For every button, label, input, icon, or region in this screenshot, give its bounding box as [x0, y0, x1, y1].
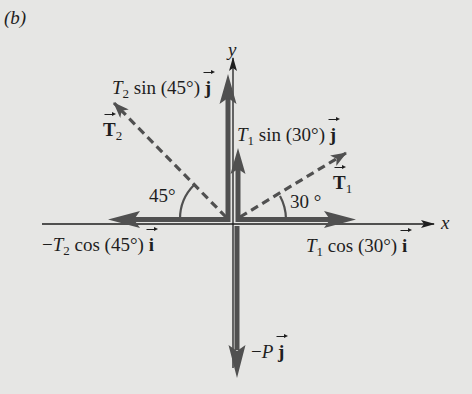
- t1-sin-label: T1 sin (30°) j: [237, 125, 336, 147]
- t1-vector-label: T1: [333, 173, 352, 195]
- t2-cos-label: −T2 cos (45°) i: [42, 235, 154, 257]
- unit-vector-i: i: [402, 236, 407, 255]
- unit-vector-j: j: [205, 78, 211, 97]
- free-body-diagram: (b) y x T2 sin (45°) j T2 T1 sin (30°) j…: [0, 0, 472, 394]
- weight-label: −P j: [251, 342, 284, 361]
- angle-arc-30: [280, 196, 286, 219]
- angle-label-45: 45°: [149, 186, 176, 205]
- t1-cos-label: T1 cos (30°) i: [306, 236, 407, 258]
- angle-label-30: 30 °: [290, 192, 321, 211]
- panel-label: (b): [4, 8, 26, 27]
- t2-sin-label: T2 sin (45°) j: [112, 78, 211, 100]
- diagram-graphics: [0, 0, 472, 394]
- weight-arrow: [229, 226, 246, 378]
- unit-vector-j: j: [330, 125, 336, 144]
- unit-vector-j: j: [278, 342, 284, 361]
- t1-cos-component-arrow: [236, 211, 356, 228]
- t2-sin-component-arrow: [220, 74, 237, 222]
- x-axis-label: x: [441, 213, 449, 232]
- t2-cos-component-arrow: [108, 211, 230, 228]
- angle-arc-45: [180, 185, 194, 219]
- t2-vector-label: T2: [103, 120, 122, 142]
- y-axis-label: y: [228, 40, 236, 59]
- unit-vector-i: i: [149, 235, 154, 254]
